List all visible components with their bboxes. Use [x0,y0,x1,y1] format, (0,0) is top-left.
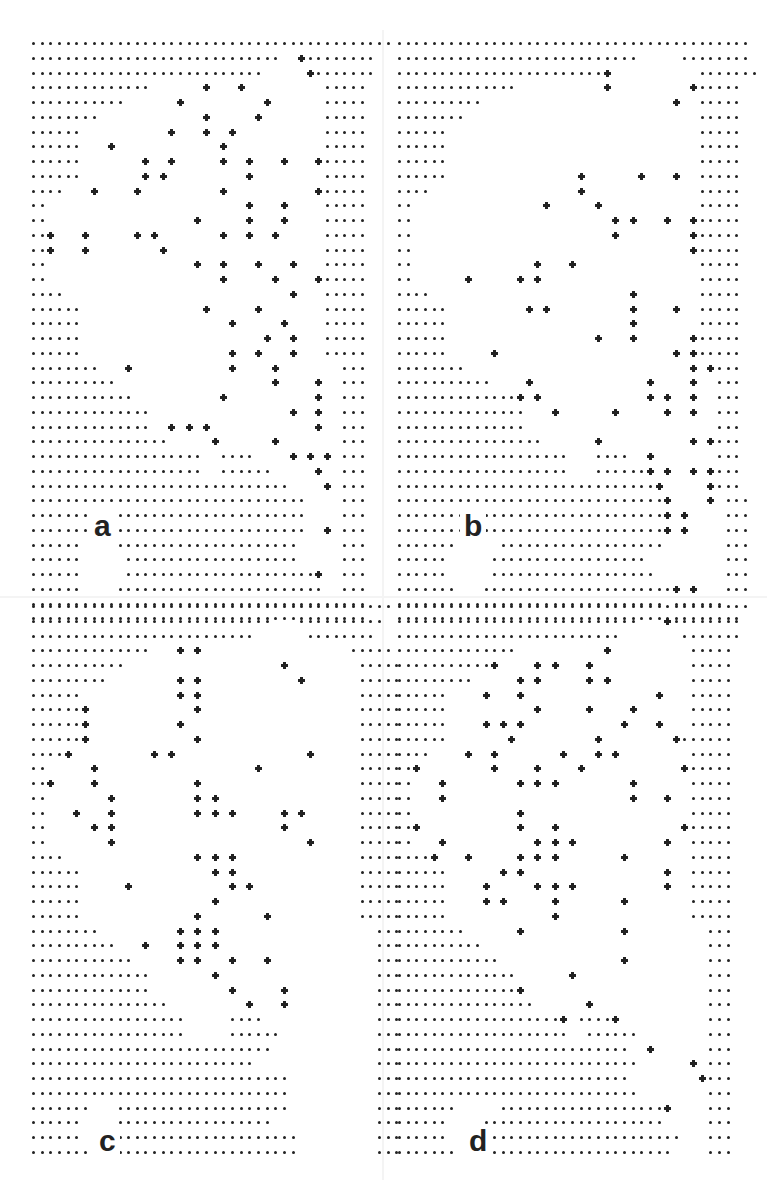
dot-marker-icon [49,635,52,638]
dot-marker-icon [222,485,225,488]
dot-marker-icon [588,485,591,488]
dot-marker-icon [49,738,52,741]
plus-marker-icon [552,824,559,831]
dot-marker-icon [162,1136,165,1139]
dot-marker-icon [274,57,277,60]
dot-marker-icon [407,470,410,473]
dot-marker-icon [718,278,721,281]
dot-marker-icon [476,1033,479,1036]
dot-marker-icon [67,738,70,741]
dot-marker-icon [510,470,513,473]
dot-marker-icon [75,160,78,163]
dot-marker-icon [493,558,496,561]
plus-marker-icon [707,438,714,445]
dot-marker-icon [378,812,381,815]
dot-marker-icon [701,352,704,355]
dot-marker-icon [119,664,122,667]
dot-marker-icon [415,426,418,429]
dot-marker-icon [361,782,364,785]
dot-marker-icon [144,974,147,977]
dot-marker-icon [433,72,436,75]
dot-marker-icon [632,529,635,532]
dot-marker-icon [119,529,122,532]
dot-marker-icon [640,529,643,532]
dot-marker-icon [649,1121,652,1124]
dot-marker-icon [361,708,364,711]
dot-marker-icon [502,86,505,89]
plus-marker-icon [690,335,697,342]
dot-marker-icon [75,42,78,45]
dot-marker-icon [718,1048,721,1051]
dot-marker-icon [343,396,346,399]
dot-marker-icon [41,1033,44,1036]
dot-marker-icon [415,915,418,918]
plus-marker-icon [272,276,279,283]
dot-marker-icon [361,249,364,252]
dot-marker-icon [292,42,295,45]
dot-marker-icon [84,989,87,992]
plus-marker-icon [664,512,671,519]
dot-marker-icon [144,499,147,502]
dot-marker-icon [274,573,277,576]
plus-marker-icon [255,114,262,121]
dot-marker-icon [67,959,70,962]
dot-marker-icon [58,145,61,148]
dot-marker-icon [361,396,364,399]
dot-marker-icon [292,514,295,517]
dot-marker-icon [476,959,479,962]
dot-marker-icon [343,440,346,443]
dot-marker-icon [41,101,44,104]
dot-marker-icon [67,131,70,134]
dot-marker-icon [119,649,122,652]
dot-marker-icon [387,738,390,741]
dot-marker-icon [84,116,87,119]
dot-marker-icon [450,101,453,104]
dot-marker-icon [32,782,35,785]
dot-marker-icon [32,738,35,741]
dot-marker-icon [727,841,730,844]
dot-marker-icon [407,1018,410,1021]
dot-marker-icon [309,573,312,576]
dot-marker-icon [623,620,626,623]
plus-marker-icon [630,706,637,713]
dot-marker-icon [93,411,96,414]
dot-marker-icon [361,544,364,547]
dot-marker-icon [58,620,61,623]
dot-marker-icon [441,337,444,340]
dot-marker-icon [326,57,329,60]
dot-marker-icon [398,249,401,252]
dot-marker-icon [407,841,410,844]
dot-marker-icon [188,573,191,576]
dot-marker-icon [32,1033,35,1036]
dot-marker-icon [562,1077,565,1080]
dot-marker-icon [41,1151,44,1154]
plus-marker-icon [220,261,227,268]
dot-marker-icon [398,753,401,756]
dot-marker-icon [580,1018,583,1021]
dot-marker-icon [144,1003,147,1006]
dot-marker-icon [727,352,730,355]
dot-marker-icon [84,440,87,443]
dot-marker-icon [127,1062,130,1065]
dot-marker-icon [266,1033,269,1036]
dot-marker-icon [588,635,591,638]
plus-marker-icon [315,379,322,386]
plus-marker-icon [630,795,637,802]
dot-marker-icon [493,588,496,591]
dot-marker-icon [75,411,78,414]
dot-marker-icon [170,529,173,532]
plus-marker-icon [82,232,89,239]
plus-marker-icon [255,306,262,313]
dot-marker-icon [433,485,436,488]
dot-marker-icon [144,1136,147,1139]
dot-marker-icon [398,219,401,222]
dot-marker-icon [283,573,286,576]
dot-marker-icon [387,1107,390,1110]
dot-marker-icon [623,57,626,60]
plus-marker-icon [595,335,602,342]
dot-marker-icon [709,72,712,75]
dot-marker-icon [450,514,453,517]
dot-marker-icon [240,42,243,45]
dot-marker-icon [93,396,96,399]
dot-marker-icon [361,605,364,608]
